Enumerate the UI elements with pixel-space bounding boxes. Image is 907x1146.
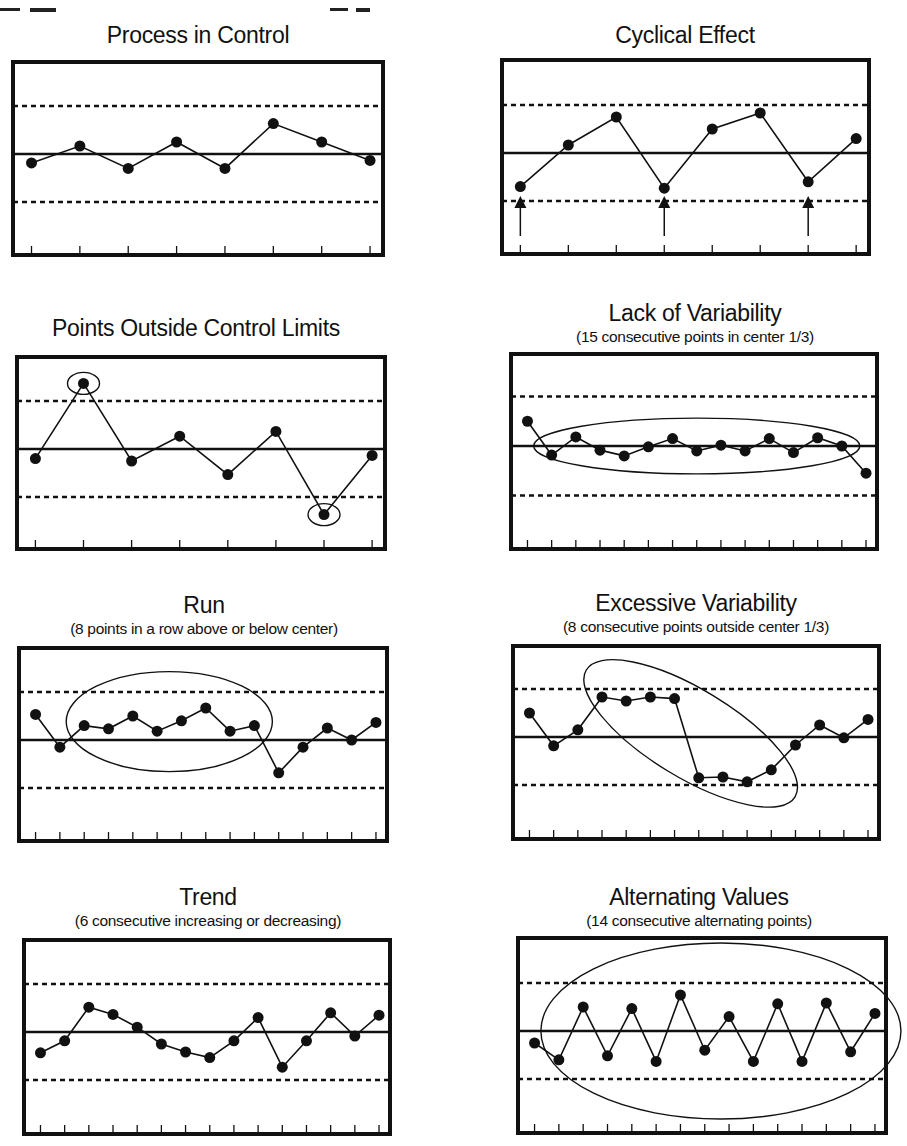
data-point (675, 990, 686, 1001)
data-point (699, 1045, 710, 1056)
data-point (529, 1038, 540, 1049)
data-point (748, 1056, 759, 1067)
data-point (553, 1054, 564, 1065)
panel-alternating-values: Alternating Values (14 consecutive alter… (0, 0, 907, 1146)
data-point (651, 1056, 662, 1067)
data-point (821, 998, 832, 1009)
data-point (772, 998, 783, 1009)
chart-frame (518, 938, 886, 1133)
data-point (724, 1011, 735, 1022)
data-point (626, 1003, 637, 1014)
data-point (845, 1046, 856, 1057)
data-point (602, 1050, 613, 1061)
control-chart (0, 0, 907, 1146)
data-point (797, 1056, 808, 1067)
data-point (578, 1002, 589, 1013)
data-point (869, 1008, 880, 1019)
